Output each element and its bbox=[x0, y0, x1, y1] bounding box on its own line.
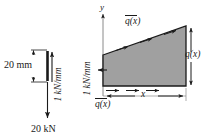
left-figure-group bbox=[31, 50, 52, 118]
dimension-label-20mm: 20 mm bbox=[4, 60, 32, 70]
overbar-bottom bbox=[95, 98, 107, 99]
engineering-load-diagram: 20 mm 1 kN/mm 20 kN y 1 kN/mm q(x) q(x) … bbox=[0, 0, 209, 138]
left-intensity-label: 1 kN/mm bbox=[54, 67, 64, 101]
right-load-label: q(x) bbox=[185, 50, 200, 60]
right-intensity-label: 1 kN/mm bbox=[83, 61, 93, 95]
bottom-load-label: q(x) bbox=[95, 100, 110, 110]
x-distance-label: x bbox=[141, 90, 145, 100]
y-axis-label: y bbox=[100, 3, 104, 12]
resultant-force-label: 20 kN bbox=[31, 124, 56, 134]
load-wedge-shape bbox=[103, 26, 186, 86]
overbar-top bbox=[125, 15, 137, 16]
top-load-label: q(x) bbox=[125, 17, 140, 27]
right-figure-group bbox=[98, 14, 191, 101]
